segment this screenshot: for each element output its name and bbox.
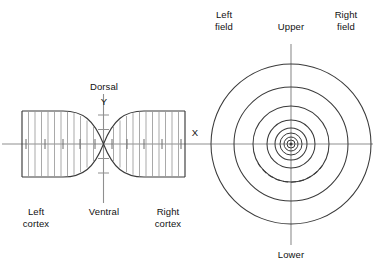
lower-label: Lower bbox=[263, 249, 319, 260]
dorsal-label: Dorsal bbox=[76, 81, 132, 92]
right-field-label-line2: field bbox=[320, 21, 372, 32]
upper-label: Upper bbox=[263, 21, 319, 32]
visual-field-center-dot bbox=[289, 142, 292, 145]
right-cortex-label-line1: Right bbox=[139, 206, 197, 217]
left-field-label-line2: field bbox=[195, 21, 253, 32]
left-field-label-line1: Left bbox=[195, 9, 253, 20]
y-axis-label: Y bbox=[97, 96, 111, 107]
left-cortex-label-line2: cortex bbox=[4, 218, 68, 229]
right-cortex-label-line2: cortex bbox=[139, 218, 197, 229]
right-field-label-line1: Right bbox=[320, 9, 372, 20]
left-cortex-label-line1: Left bbox=[4, 206, 68, 217]
x-axis-label: X bbox=[189, 127, 201, 138]
ventral-label: Ventral bbox=[76, 206, 132, 217]
